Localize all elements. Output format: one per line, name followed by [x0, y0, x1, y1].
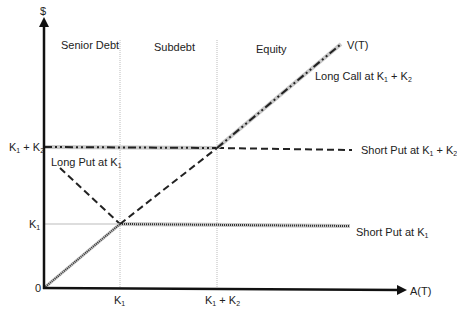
short-put-k1k2-label-rest: + K	[433, 144, 453, 156]
x-tick-k1-sub1: 1	[121, 300, 125, 307]
short-put-k1k2-label-text: Short Put at K	[361, 144, 429, 156]
y-tick-k1: K1	[29, 219, 40, 231]
x-tick-k1k2: K1 + K2	[205, 295, 240, 307]
x-axis	[43, 288, 402, 290]
short-put-k1-label-text: Short Put at K	[356, 226, 424, 238]
long-call-label: Long Call at K1 + K2	[315, 71, 412, 83]
long-call-label-rest: + K	[388, 70, 408, 82]
x-tick-k1: K1	[114, 295, 125, 307]
long-call-label-text: Long Call at K	[315, 70, 384, 82]
y-axis-label: $	[40, 6, 46, 17]
y-tick-k1k2: K1 + K2	[9, 142, 44, 154]
long-put-k1-line	[60, 168, 120, 224]
short-put-k1k2-line	[217, 148, 352, 150]
short-put-k1-label: Short Put at K1	[356, 227, 428, 239]
origin-label: 0	[35, 283, 41, 294]
k1k2-horizontal-dashdot	[44, 147, 217, 148]
long-put-k1-label: Long Put at K1	[51, 157, 122, 169]
y-tick-k1-sub1: 1	[36, 224, 40, 231]
short-put-k1k2-label: Short Put at K1 + K2	[361, 145, 457, 157]
y-tick-k1k2-rest: + K	[20, 141, 40, 153]
long-put-k1-label-sub1: 1	[118, 162, 122, 169]
region-equity: Equity	[256, 44, 287, 55]
long-put-k1-label-text: Long Put at K	[51, 156, 118, 168]
long-call-label-sub2: 2	[408, 76, 412, 83]
short-put-k1k2-label-sub2: 2	[453, 150, 457, 157]
short-put-k1-label-sub1: 1	[424, 232, 428, 239]
region-senior-debt: Senior Debt	[61, 40, 119, 51]
value-line-upper-dashdot	[217, 44, 341, 148]
region-subdebt: Subdebt	[154, 42, 195, 53]
x-tick-k1k2-rest: + K	[216, 294, 236, 306]
x-tick-k1k2-sub2: 2	[236, 300, 240, 307]
x-axis-label: A(T)	[410, 286, 431, 297]
value-line-label: V(T)	[347, 40, 368, 51]
value-line-middle	[120, 148, 217, 224]
y-tick-k1k2-sub2: 2	[40, 147, 44, 154]
